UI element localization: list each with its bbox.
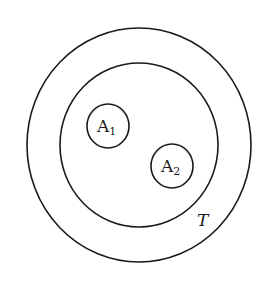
set-label-t: T — [197, 210, 210, 230]
subset-label-a1-sub: 1 — [109, 125, 116, 138]
subset-label-a1-main: A — [96, 116, 110, 136]
subset-label-a2-sub: 2 — [173, 165, 180, 178]
subset-label-a2-main: A — [160, 156, 174, 176]
inner-circle-t — [60, 63, 218, 227]
subset-label-a2: A2 — [160, 156, 180, 178]
nested-set-diagram: A1 A2 T — [0, 0, 272, 289]
subset-label-a1: A1 — [96, 116, 116, 138]
